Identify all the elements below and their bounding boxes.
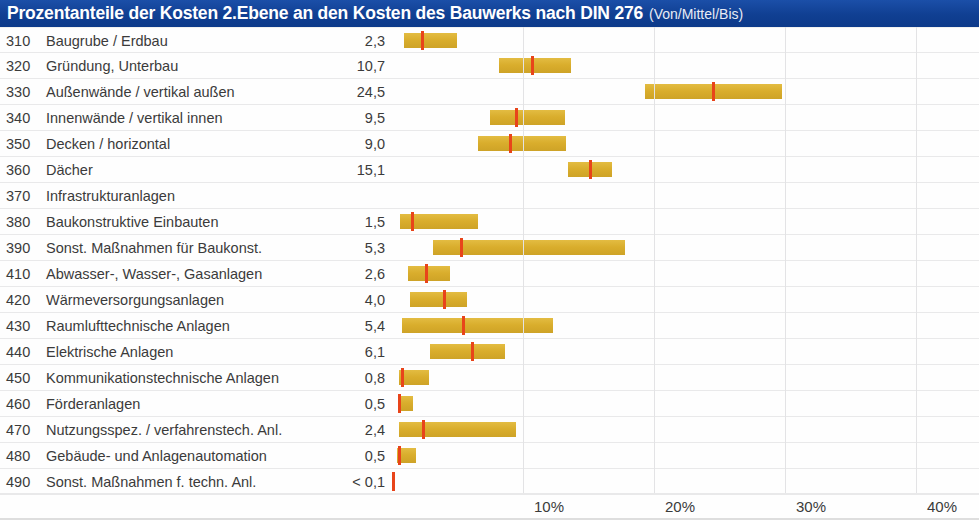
- row-code: 320: [6, 53, 42, 79]
- table-row[interactable]: 420Wärmeversorgungsanlagen4,0: [0, 287, 979, 313]
- row-value: 9,5: [280, 105, 385, 131]
- row-code: 480: [6, 443, 42, 469]
- row-range-lane: [392, 131, 979, 157]
- row-value: 2,4: [280, 417, 385, 443]
- row-value: 0,8: [280, 365, 385, 391]
- gridline-20: [654, 27, 655, 493]
- gridline-10: [523, 27, 524, 493]
- row-code: 420: [6, 287, 42, 313]
- row-range-lane: [392, 261, 979, 287]
- row-value: 9,0: [280, 131, 385, 157]
- row-label: Förderanlagen: [46, 391, 140, 417]
- row-value: 0,5: [280, 443, 385, 469]
- row-range-lane: [392, 443, 979, 469]
- row-code: 410: [6, 261, 42, 287]
- row-code: 310: [6, 28, 42, 54]
- row-range-lane: [392, 79, 979, 105]
- table-row[interactable]: 370Infrastrukturanlagen: [0, 183, 979, 209]
- row-code: 350: [6, 131, 42, 157]
- chart-page: Prozentanteile der Kosten 2.Ebene an den…: [0, 0, 979, 520]
- row-range-lane: [392, 53, 979, 79]
- row-code: 390: [6, 235, 42, 261]
- row-label: Sonst. Maßnahmen für Baukonst.: [46, 235, 262, 261]
- range-bar: [408, 266, 450, 281]
- table-row[interactable]: 450Kommunikationstechnische Anlagen0,8: [0, 365, 979, 391]
- x-tick-label: 10%: [534, 495, 564, 519]
- row-range-lane: [392, 157, 979, 183]
- mean-marker: [443, 290, 446, 309]
- page-title: Prozentanteile der Kosten 2.Ebene an den…: [7, 5, 643, 23]
- row-label: Decken / horizontal: [46, 131, 170, 157]
- x-tick-label: 20%: [665, 495, 695, 519]
- row-value: 6,1: [280, 339, 385, 365]
- row-range-lane: [392, 469, 979, 495]
- range-bar: [399, 396, 413, 411]
- table-row[interactable]: 390Sonst. Maßnahmen für Baukonst.5,3: [0, 235, 979, 261]
- row-range-lane: [392, 391, 979, 417]
- mean-marker: [515, 108, 518, 127]
- mean-marker: [460, 238, 463, 257]
- x-tick-label: 40%: [927, 495, 957, 519]
- table-row[interactable]: 440Elektrische Anlagen6,1: [0, 339, 979, 365]
- row-value: 0,5: [280, 391, 385, 417]
- mean-marker: [425, 264, 428, 283]
- table-row[interactable]: 470Nutzungsspez. / verfahrenstech. Anl.2…: [0, 417, 979, 443]
- row-code: 370: [6, 183, 42, 209]
- table-row[interactable]: 350Decken / horizontal9,0: [0, 131, 979, 157]
- row-range-lane: [392, 417, 979, 443]
- range-bar: [430, 344, 505, 359]
- row-label: Sonst. Maßnahmen f. techn. Anl.: [46, 469, 256, 495]
- row-value: 24,5: [280, 79, 385, 105]
- row-range-lane: [392, 313, 979, 339]
- row-range-lane: [392, 235, 979, 261]
- table-row[interactable]: 380Baukonstruktive Einbauten1,5: [0, 209, 979, 235]
- row-range-lane: [392, 105, 979, 131]
- page-subtitle: (Von/Mittel/Bis): [649, 7, 743, 21]
- row-code: 490: [6, 469, 42, 495]
- row-code: 340: [6, 105, 42, 131]
- row-value: 2,3: [280, 28, 385, 54]
- row-range-lane: [392, 183, 979, 209]
- mean-marker: [462, 316, 465, 335]
- row-value: 4,0: [280, 287, 385, 313]
- row-label: Kommunikationstechnische Anlagen: [46, 365, 279, 391]
- range-bar: [410, 292, 466, 307]
- table-row[interactable]: 480Gebäude- und Anlagenautomation0,5: [0, 443, 979, 469]
- mean-marker: [712, 82, 715, 101]
- row-code: 430: [6, 313, 42, 339]
- gridline-40: [916, 27, 917, 493]
- row-range-lane: [392, 339, 979, 365]
- row-label: Elektrische Anlagen: [46, 339, 173, 365]
- row-code: 460: [6, 391, 42, 417]
- row-label: Dächer: [46, 157, 93, 183]
- table-row[interactable]: 360Dächer15,1: [0, 157, 979, 183]
- range-bar: [499, 58, 571, 73]
- row-range-lane: [392, 287, 979, 313]
- row-code: 360: [6, 157, 42, 183]
- table-row[interactable]: 320Gründung, Unterbau10,7: [0, 53, 979, 79]
- table-row[interactable]: 460Förderanlagen0,5: [0, 391, 979, 417]
- range-bar: [404, 33, 458, 48]
- mean-marker: [392, 472, 395, 491]
- row-label: Baugrube / Erdbau: [46, 28, 168, 54]
- row-value: 5,3: [280, 235, 385, 261]
- row-label: Nutzungsspez. / verfahrenstech. Anl.: [46, 417, 282, 443]
- table-row[interactable]: 310Baugrube / Erdbau2,3: [0, 27, 979, 53]
- table-row[interactable]: 340Innenwände / vertikal innen9,5: [0, 105, 979, 131]
- row-code: 330: [6, 79, 42, 105]
- mean-marker: [422, 420, 425, 439]
- mean-marker: [531, 56, 534, 75]
- row-value: 5,4: [280, 313, 385, 339]
- chart-title-bar: Prozentanteile der Kosten 2.Ebene an den…: [0, 0, 979, 27]
- row-value: 2,6: [280, 261, 385, 287]
- table-row[interactable]: 330Außenwände / vertikal außen24,5: [0, 79, 979, 105]
- table-row[interactable]: 430Raumlufttechnische Anlagen5,4: [0, 313, 979, 339]
- table-row[interactable]: 410Abwasser-, Wasser-, Gasanlagen2,6: [0, 261, 979, 287]
- table-row[interactable]: 490Sonst. Maßnahmen f. techn. Anl.< 0,1: [0, 469, 979, 495]
- row-label: Wärmeversorgungsanlagen: [46, 287, 224, 313]
- row-range-lane: [392, 365, 979, 391]
- row-label: Außenwände / vertikal außen: [46, 79, 235, 105]
- row-label: Gebäude- und Anlagenautomation: [46, 443, 267, 469]
- mean-marker: [398, 446, 401, 465]
- mean-marker: [398, 394, 401, 413]
